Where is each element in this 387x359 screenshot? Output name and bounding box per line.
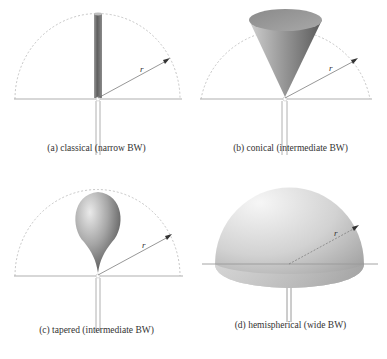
cylinder-element — [94, 14, 102, 98]
caption-d: (d) hemispherical (wide BW) — [194, 320, 387, 330]
panel-d-hemispherical: r (d) hemispherical (wide BW) — [194, 180, 387, 359]
svg-text:r: r — [334, 228, 338, 238]
cone-top-disc — [249, 9, 322, 31]
cone-element — [249, 20, 322, 97]
panel-b-conical: r (b) conical (intermediate BW) — [194, 0, 387, 179]
svg-text:r: r — [142, 240, 146, 250]
svg-text:r: r — [329, 63, 333, 73]
hemispherical-monopole-diagram: r — [194, 180, 387, 359]
svg-text:r: r — [140, 64, 144, 74]
caption-a: (a) classical (narrow BW) — [0, 143, 193, 153]
caption-c: (c) tapered (intermediate BW) — [0, 325, 193, 335]
teardrop-element — [75, 192, 120, 273]
caption-b: (b) conical (intermediate BW) — [194, 143, 387, 153]
panel-c-tapered: r (c) tapered (intermediate BW) — [0, 180, 193, 359]
panel-a-classical: r (a) classical (narrow BW) — [0, 0, 193, 179]
radius-arrow — [98, 60, 168, 98]
